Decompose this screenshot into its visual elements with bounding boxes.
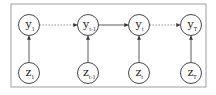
- node-yt-1: yt-1: [78, 15, 99, 36]
- node-z1: z1: [19, 63, 40, 84]
- node-zt: zt: [129, 63, 150, 84]
- node-yT: yT: [181, 15, 202, 36]
- edges: [29, 25, 191, 63]
- node-yt: yt: [129, 15, 150, 36]
- node-zt-1: zt-1: [78, 63, 99, 84]
- node-y1: y1: [19, 15, 40, 36]
- diagram-frame: [11, 4, 206, 87]
- node-zT: zT: [181, 63, 202, 84]
- hmm-graphical-model: y1yt-1ytyTz1zt-1ztzT: [0, 0, 216, 95]
